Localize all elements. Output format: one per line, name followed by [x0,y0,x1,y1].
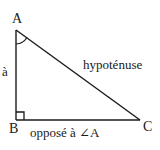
vertex-label-c: C [143,120,152,134]
hypotenuse-label: hypoténuse [83,58,142,71]
angle-arc-marker [16,38,27,45]
hypotenuse-line [16,30,140,120]
vertex-label-a: A [12,12,22,26]
side-bc-label: opposé à ∠A [30,126,99,139]
right-triangle-figure: A B C à hypoténuse opposé à ∠A [0,0,160,150]
right-angle-marker [16,112,24,120]
vertex-label-b: B [9,122,18,136]
leg-ab-label: à [2,65,8,78]
